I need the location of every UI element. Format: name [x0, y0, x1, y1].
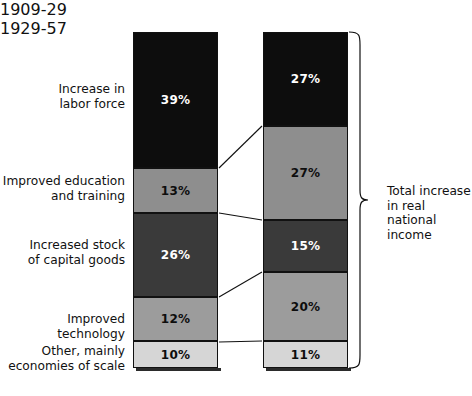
- connector-line-1: [219, 126, 262, 168]
- segment-value: 27%: [291, 167, 320, 179]
- bar-right-shadow-bottom: [266, 368, 351, 371]
- column-header-1909-29: 1909-29: [0, 0, 85, 19]
- column-header-1929-57: 1929-57: [0, 19, 85, 38]
- segment-value: 20%: [291, 301, 320, 313]
- stacked-bar-1909-29: 39% 13% 26% 12% 10%: [133, 32, 218, 368]
- connector-line-3: [219, 272, 262, 297]
- bar-left-shadow-bottom: [136, 368, 221, 371]
- segment-labor-force-1909-29[interactable]: 39%: [133, 32, 218, 168]
- segment-value: 27%: [291, 73, 320, 85]
- row-label-other-economies-of-scale: Other, mainly economies of scale: [8, 344, 125, 373]
- segment-value: 26%: [161, 249, 190, 261]
- segment-value: 10%: [161, 349, 190, 361]
- segment-other-1929-57[interactable]: 11%: [263, 341, 348, 368]
- segment-technology-1929-57[interactable]: 20%: [263, 272, 348, 341]
- row-label-improved-technology: Improved technology: [0, 312, 125, 341]
- total-increase-annotation: Total increase in real national income: [387, 184, 472, 242]
- chart-container: 1909-29 1929-57 Increase in labor force …: [0, 0, 472, 396]
- segment-value: 11%: [291, 349, 320, 361]
- total-increase-brace-icon: [349, 32, 368, 368]
- row-label-improved-education-training: Improved education and training: [3, 174, 125, 203]
- row-label-increase-in-labor-force: Increase in labor force: [58, 82, 125, 111]
- segment-value: 12%: [161, 313, 190, 325]
- segment-value: 39%: [161, 94, 190, 106]
- segment-value: 15%: [291, 240, 320, 252]
- connector-line-2: [219, 213, 262, 220]
- segment-value: 13%: [161, 185, 190, 197]
- segment-education-1909-29[interactable]: 13%: [133, 168, 218, 213]
- connector-line-4: [219, 341, 262, 342]
- segment-other-1909-29[interactable]: 10%: [133, 341, 218, 368]
- segment-capital-goods-1929-57[interactable]: 15%: [263, 220, 348, 272]
- segment-technology-1909-29[interactable]: 12%: [133, 297, 218, 341]
- segment-education-1929-57[interactable]: 27%: [263, 126, 348, 220]
- segment-capital-goods-1909-29[interactable]: 26%: [133, 213, 218, 297]
- row-label-increased-stock-capital-goods: Increased stock of capital goods: [28, 238, 125, 267]
- segment-labor-force-1929-57[interactable]: 27%: [263, 32, 348, 126]
- stacked-bar-1929-57: 27% 27% 15% 20% 11%: [263, 32, 348, 368]
